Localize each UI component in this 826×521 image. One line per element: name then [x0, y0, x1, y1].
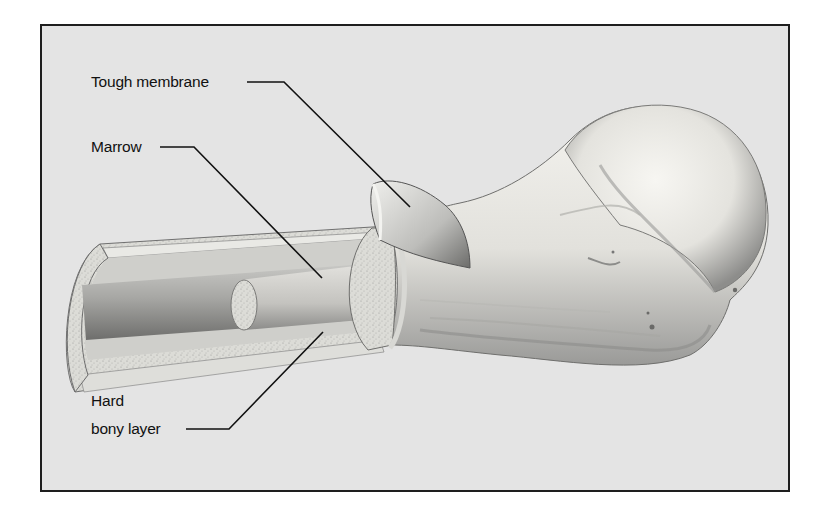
marrow-cut-end — [231, 280, 257, 330]
label-bony-layer: bony layer — [91, 420, 161, 438]
label-marrow: Marrow — [91, 138, 141, 156]
label-hard: Hard — [91, 392, 124, 410]
label-tough-membrane: Tough membrane — [91, 73, 209, 91]
